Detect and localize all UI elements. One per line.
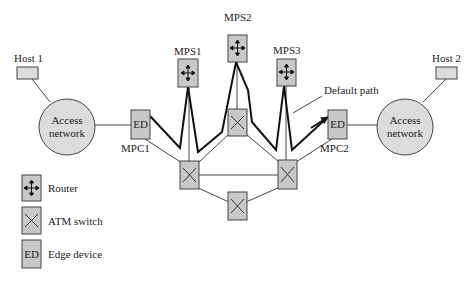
mps1-label: MPS1: [174, 46, 202, 57]
host1-box: [17, 67, 38, 79]
mps3-label: MPS3: [273, 45, 301, 56]
legend-router-label: Router: [48, 183, 78, 194]
default-path-label: Default path: [324, 85, 379, 96]
host1-label: Host 1: [14, 53, 43, 64]
host2-label: Host 2: [432, 53, 461, 64]
access-network-right-line1: Access: [377, 114, 433, 127]
legend-edge-device-box-text: ED: [22, 249, 41, 260]
legend-atm-switch-box: [22, 207, 41, 234]
network-diagram: [0, 0, 475, 283]
access-network-left-label: Access network: [39, 114, 95, 139]
atm-switch-top: [228, 109, 247, 136]
atm-switch-bottom: [228, 192, 247, 220]
legend-atm-switch-label: ATM switch: [48, 216, 103, 227]
atm-switch-right: [278, 160, 297, 189]
access-network-left-line2: network: [39, 127, 95, 140]
mps2-label: MPS2: [224, 12, 252, 23]
router-mps3: [277, 59, 296, 86]
router-mps1: [178, 59, 198, 87]
mpc2-label: MPC2: [320, 143, 349, 154]
mpc2-box-text: ED: [328, 119, 347, 130]
legend-edge-device-label: Edge device: [48, 249, 102, 260]
default-path-lines: [150, 62, 328, 152]
access-network-right-label: Access network: [377, 114, 433, 139]
host2-box: [436, 67, 457, 79]
router-mps2: [228, 35, 247, 62]
access-network-right-line2: network: [377, 127, 433, 140]
access-network-left-line1: Access: [39, 114, 95, 127]
legend-router-box: [22, 175, 41, 201]
atm-switch-left: [180, 161, 199, 189]
mpc1-label: MPC1: [121, 143, 150, 154]
mpc1-box-text: ED: [131, 119, 150, 130]
